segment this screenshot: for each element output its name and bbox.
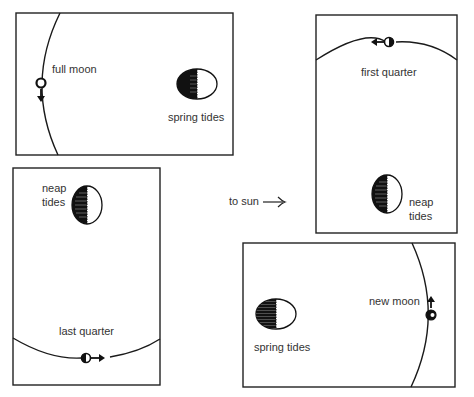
earth-tide-bulge-icon <box>72 186 102 224</box>
sun-direction-label: to sun <box>229 195 259 207</box>
moon-tides-diagram: full moon spring tides first quarter nea… <box>0 0 474 397</box>
moon-new-icon <box>426 310 436 320</box>
arrow-right-icon <box>91 354 105 362</box>
arrow-right-icon <box>263 197 285 207</box>
earth-tide-bulge-icon <box>177 69 217 99</box>
sun-direction: to sun <box>229 195 285 207</box>
arrow-down-icon <box>37 89 45 102</box>
tide-label-neap-line1: neap <box>42 182 66 194</box>
tide-label-neap-line2: tides <box>409 210 433 222</box>
panel-full-moon: full moon spring tides <box>16 13 233 155</box>
moon-first-quarter-icon <box>385 38 394 47</box>
tide-label-spring: spring tides <box>254 341 311 353</box>
moon-full-icon <box>37 79 46 88</box>
phase-label-full-moon: full moon <box>52 63 97 75</box>
phase-label-new-moon: new moon <box>369 295 420 307</box>
panel-new-moon: new moon spring tides <box>243 243 455 387</box>
phase-label-first-quarter: first quarter <box>361 66 417 78</box>
phase-label-last-quarter: last quarter <box>59 325 114 337</box>
moon-last-quarter-icon <box>82 354 91 363</box>
panel-last-quarter: last quarter neap tides <box>13 168 160 385</box>
earth-tide-bulge-icon <box>372 175 402 213</box>
tide-label-neap-line2: tides <box>42 196 66 208</box>
earth-tide-bulge-icon <box>256 299 296 329</box>
panel-first-quarter: first quarter neap tides <box>316 15 457 233</box>
tide-label-neap-line1: neap <box>409 196 433 208</box>
tide-label-spring: spring tides <box>168 111 225 123</box>
